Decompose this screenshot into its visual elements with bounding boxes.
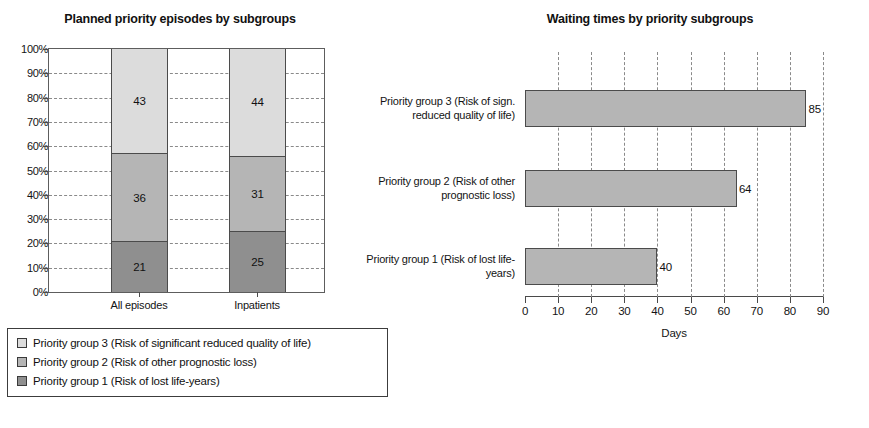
legend-swatch-icon [17,357,27,367]
right-chart-title: Waiting times by priority subgroups [470,12,830,26]
legend-item-label: Priority group 1 (Risk of lost life-year… [33,374,220,388]
segment-value-label: 44 [251,96,263,108]
right-chart-baseline [525,296,823,297]
bar-category-label: Priority group 1 (Risk of lost life-year… [365,252,515,280]
gridline [823,52,824,297]
y-axis-tick-label: 70% [6,116,48,128]
stacked-column[interactable]: 433621 [111,49,168,292]
bar-category-label: Priority group 3 (Risk of sign. reduced … [365,94,515,122]
y-axis-tick-label: 100% [6,43,48,55]
x-axis-tick [558,297,559,303]
y-axis-tick-label: 60% [6,140,48,152]
x-axis-tick-label: 30 [618,305,630,317]
legend-item[interactable]: Priority group 3 (Risk of significant re… [17,336,379,350]
x-axis-tick [657,297,658,303]
gridline [790,52,791,297]
y-axis-tick-label: 0% [6,286,48,298]
column-segment[interactable]: 36 [112,153,167,240]
stacked-column-chart-panel: Planned priority episodes by subgroups 1… [0,0,420,428]
bar-value-label: 85 [808,103,820,115]
x-axis-tick [790,297,791,303]
bar-category-label: Priority group 2 (Risk of other prognost… [365,174,515,202]
right-chart-plot-area: Days 010203040506070809085Priority group… [525,52,823,297]
bar-value-label: 64 [739,183,751,195]
x-axis-tick-label: 20 [585,305,597,317]
column-segment[interactable]: 31 [230,156,285,231]
x-axis-tick-label: 90 [817,305,829,317]
legend-swatch-icon [17,338,27,348]
x-axis-tick [257,292,258,297]
x-axis-category-label: All episodes [89,299,189,311]
horizontal-bar-chart-panel: Waiting times by priority subgroups Days… [420,0,869,428]
horizontal-bar[interactable]: 40 [525,248,657,285]
left-chart-y-axis: 100%90%80%70%60%50%40%30%20%10%0% [0,48,48,293]
x-axis-tick-label: 70 [751,305,763,317]
x-axis-tick [691,297,692,303]
horizontal-bar[interactable]: 85 [525,90,806,127]
legend-item-label: Priority group 2 (Risk of other prognost… [33,355,257,369]
y-axis-tick-label: 40% [6,189,48,201]
y-axis-tick-label: 30% [6,213,48,225]
legend-item-label: Priority group 3 (Risk of significant re… [33,336,311,350]
gridline [757,52,758,297]
column-segment[interactable]: 21 [112,241,167,292]
bar-value-label: 40 [659,261,671,273]
x-axis-tick [757,297,758,303]
column-segment[interactable]: 43 [112,49,167,153]
y-axis-tick-label: 20% [6,237,48,249]
legend-item[interactable]: Priority group 2 (Risk of other prognost… [17,355,379,369]
x-axis-tick-label: 50 [684,305,696,317]
y-axis-tick-label: 50% [6,165,48,177]
segment-value-label: 21 [133,261,145,273]
x-axis-tick-label: 40 [651,305,663,317]
segment-value-label: 36 [133,192,145,204]
segment-value-label: 25 [251,256,263,268]
x-axis-tick [591,297,592,303]
column-segment[interactable]: 44 [230,49,285,156]
left-chart-plot-area: 433621443125 [48,48,325,293]
x-axis-tick [139,292,140,297]
x-axis-tick [823,297,824,303]
legend-item[interactable]: Priority group 1 (Risk of lost life-year… [17,374,379,388]
chart-legend: Priority group 3 (Risk of significant re… [7,328,388,397]
left-chart-title: Planned priority episodes by subgroups [0,12,360,26]
x-axis-tick-label: 60 [717,305,729,317]
segment-value-label: 31 [251,188,263,200]
y-axis-tick-label: 80% [6,92,48,104]
x-axis-tick [525,297,526,303]
x-axis-tick [624,297,625,303]
x-axis-tick-label: 0 [522,305,528,317]
legend-swatch-icon [17,376,27,386]
y-axis-tick-label: 90% [6,67,48,79]
x-axis-category-label: Inpatients [207,299,307,311]
x-axis-tick [724,297,725,303]
right-chart-axis-title: Days [525,327,823,339]
y-axis-tick-label: 10% [6,262,48,274]
column-segment[interactable]: 25 [230,231,285,292]
x-axis-tick-label: 80 [784,305,796,317]
stacked-column[interactable]: 443125 [229,49,286,292]
segment-value-label: 43 [133,95,145,107]
horizontal-bar[interactable]: 64 [525,170,737,207]
x-axis-tick-label: 10 [552,305,564,317]
